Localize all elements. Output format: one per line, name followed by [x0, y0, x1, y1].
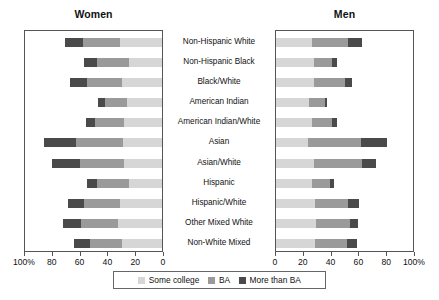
bar-segment-ba [76, 138, 123, 147]
bar-segment-ba [83, 38, 121, 47]
bar-segment-some [276, 58, 314, 67]
bar-segment-more [330, 179, 334, 188]
category-label: Hispanic [163, 173, 275, 193]
bar-row [25, 194, 162, 214]
bar-segment-some [129, 58, 162, 67]
bar-row [25, 33, 162, 53]
bar-segment-more [345, 78, 352, 87]
stacked-bar [98, 98, 162, 107]
axis-tick-mark [358, 252, 359, 256]
panel-title-men: Men [275, 8, 414, 20]
legend-label: More than BA [250, 275, 301, 285]
bar-segment-ba [314, 58, 332, 67]
bar-segment-some [124, 159, 162, 168]
category-label: American Indian/White [163, 112, 275, 132]
axis-tick-mark [331, 252, 332, 256]
stacked-bar-chart: Women Men Non-Hispanic WhiteNon-Hispanic… [0, 0, 439, 300]
bar-segment-more [63, 219, 81, 228]
stacked-bar [84, 58, 162, 67]
bar-segment-ba [316, 219, 349, 228]
axis-tick-label: 20 [130, 257, 140, 267]
bar-row [25, 113, 162, 133]
axis-tick-mark [24, 252, 25, 256]
stacked-bar [68, 199, 162, 208]
axis-tick-mark [303, 252, 304, 256]
bar-segment-more [332, 118, 338, 127]
bar-row [276, 93, 413, 113]
bar-segment-some [276, 159, 314, 168]
bar-segment-more [84, 58, 97, 67]
bar-segment-some [276, 138, 308, 147]
bar-segment-more [87, 179, 97, 188]
bar-segment-more [348, 38, 362, 47]
bar-segment-ba [312, 118, 331, 127]
category-label: Asian/White [163, 153, 275, 173]
bar-segment-ba [80, 159, 124, 168]
plot-area-men [275, 30, 414, 252]
bar-segment-ba [315, 239, 347, 248]
bar-segment-more [74, 239, 89, 248]
axis-tick-label: 100% [13, 257, 35, 267]
legend-item: Some college [138, 275, 199, 285]
stacked-bar [276, 159, 376, 168]
axis-tick-label: 40 [326, 257, 336, 267]
bar-segment-ba [95, 118, 124, 127]
stacked-bar [276, 219, 358, 228]
bar-row [25, 73, 162, 93]
plot-area-women [24, 30, 163, 252]
stacked-bar [276, 98, 327, 107]
axis-tick-label: 0 [161, 257, 166, 267]
bar-segment-some [120, 38, 162, 47]
bar-segment-some [276, 98, 309, 107]
category-label: Black/White [163, 72, 275, 92]
bar-row [276, 113, 413, 133]
bar-row [276, 194, 413, 214]
stacked-bar [276, 239, 357, 248]
bar-segment-ba [84, 199, 120, 208]
bar-segment-more [347, 239, 357, 248]
bar-segment-ba [312, 38, 348, 47]
axis-tick-label: 0 [273, 257, 278, 267]
bar-segment-more [44, 138, 76, 147]
square-swatch-icon [138, 277, 145, 284]
axis-tick-label: 40 [103, 257, 113, 267]
bar-segment-more [86, 118, 96, 127]
bar-segment-more [52, 159, 80, 168]
bar-segment-some [276, 239, 315, 248]
bar-segment-some [124, 118, 162, 127]
bar-row [25, 234, 162, 252]
bar-segment-some [276, 78, 314, 87]
bar-row [276, 154, 413, 174]
category-label: Non-Hispanic Black [163, 52, 275, 72]
stacked-bar [74, 239, 162, 248]
bar-segment-more [362, 159, 376, 168]
category-label: Non-White Mixed [163, 233, 275, 253]
category-label: American Indian [163, 92, 275, 112]
stacked-bar [276, 58, 337, 67]
bar-row [276, 133, 413, 153]
axis-tick-mark [163, 252, 164, 256]
bar-row [276, 73, 413, 93]
bar-segment-more [70, 78, 87, 87]
axis-tick-label: 80 [381, 257, 391, 267]
bar-row [276, 174, 413, 194]
bar-segment-more [332, 58, 338, 67]
square-swatch-icon [239, 277, 246, 284]
legend-item: More than BA [239, 275, 301, 285]
bar-segment-some [120, 199, 162, 208]
category-label-column: Non-Hispanic WhiteNon-Hispanic BlackBlac… [163, 30, 275, 252]
axis-tick-label: 60 [354, 257, 364, 267]
bar-segment-ba [314, 159, 363, 168]
axis-tick-mark [80, 252, 81, 256]
bar-segment-ba [81, 219, 117, 228]
bar-segment-more [65, 38, 83, 47]
bar-segment-ba [97, 179, 129, 188]
bar-row [276, 33, 413, 53]
stacked-bar [70, 78, 162, 87]
bar-segment-more [350, 219, 358, 228]
bar-segment-some [123, 138, 162, 147]
bar-segment-ba [309, 98, 324, 107]
bar-segment-ba [315, 199, 348, 208]
stacked-bar [276, 138, 387, 147]
bar-row [25, 53, 162, 73]
